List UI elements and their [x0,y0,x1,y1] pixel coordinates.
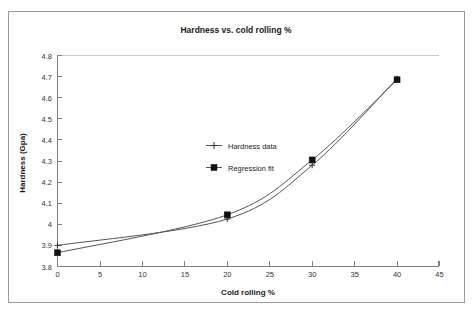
chart-title: Hardness vs. cold rolling % [180,25,291,35]
legend-label-regression-fit: Regression fit [228,164,275,173]
y-axis-tick-labels: 4.8 4.7 4.6 4.5 4.4 4.3 4.2 4.1 4 3.9 3.… [42,52,52,272]
x-tick-label-35: 35 [351,270,359,279]
y-tick-label-3.9: 3.9 [42,241,52,250]
y-tick-label-4.5: 4.5 [42,115,52,124]
y-tick-label-4.1: 4.1 [42,199,52,208]
y-tick-label-4.8: 4.8 [42,52,52,61]
x-tick-label-10: 10 [138,270,146,279]
x-axis-title: Cold rolling % [221,288,275,297]
x-tick-label-45: 45 [435,270,443,279]
chart-figure: Hardness vs. cold rolling % Hardness (Gp… [0,0,473,314]
y-tick-label-4.2: 4.2 [42,178,52,187]
legend-item-regression-fit: Regression fit [206,164,275,173]
y-tick-label-4.6: 4.6 [42,94,52,103]
x-tick-label-5: 5 [98,270,102,279]
y-axis-title: Hardness (Gpa) [18,133,27,193]
legend-item-hardness-data: Hardness data [206,142,278,151]
legend-square-icon [211,165,217,171]
x-tick-label-30: 30 [308,270,316,279]
y-tick-label-4.7: 4.7 [42,73,52,82]
data-point-marker-square [309,157,315,163]
legend-cross-icon [211,142,218,149]
data-point-marker-square [394,77,400,83]
y-tick-label-4: 4 [48,220,52,229]
x-tick-label-15: 15 [181,270,189,279]
x-tick-label-25: 25 [266,270,274,279]
x-axis-ticks [58,261,440,266]
chart-legend: Hardness data Regression fit [206,142,278,173]
y-tick-label-3.8: 3.8 [42,263,52,272]
legend-label-hardness-data: Hardness data [228,142,278,151]
x-tick-label-0: 0 [55,270,59,279]
x-axis-tick-labels: 0 5 10 15 20 25 30 35 40 45 [55,270,443,279]
y-tick-label-4.3: 4.3 [42,157,52,166]
series-hardness-data-markers [55,76,401,249]
x-tick-label-40: 40 [393,270,401,279]
x-tick-label-20: 20 [223,270,231,279]
hardness-vs-cold-rolling-chart: Hardness vs. cold rolling % Hardness (Gp… [0,0,473,314]
data-point-marker-square [55,250,61,256]
y-tick-label-4.4: 4.4 [42,136,52,145]
data-point-marker-cross [55,242,61,248]
data-point-marker-square [224,212,230,218]
